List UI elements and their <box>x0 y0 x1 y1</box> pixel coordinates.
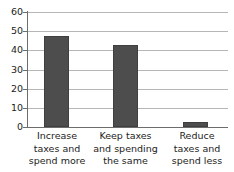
y-tick-label-60: 60 <box>2 7 23 17</box>
x-axis-category-labels: Increase taxes and spend more Keep taxes… <box>27 130 234 172</box>
bar-chart: 60 50 40 30 20 10 0 Increase taxes and s… <box>0 0 234 172</box>
bar-increase-taxes-and-spend-more <box>44 36 69 127</box>
y-tick-label-10: 10 <box>2 103 23 113</box>
plot-area <box>27 12 228 127</box>
gridline-60 <box>27 12 228 13</box>
x-label-line: taxes and <box>24 143 90 156</box>
x-label-line: Reduce <box>162 130 232 143</box>
x-label-line: spend less <box>162 155 232 168</box>
y-tick-mark-30 <box>23 70 27 71</box>
gridline-zero-axis <box>27 127 228 128</box>
y-tick-label-50: 50 <box>2 26 23 36</box>
y-tick-mark-10 <box>23 108 27 109</box>
y-tick-mark-50 <box>23 31 27 32</box>
y-tick-mark-20 <box>23 89 27 90</box>
y-tick-label-20: 20 <box>2 84 23 94</box>
x-label-keep-taxes-and-spending-the-same: Keep taxes and spending the same <box>88 130 163 168</box>
x-label-line: taxes and <box>162 143 232 156</box>
y-tick-mark-40 <box>23 50 27 51</box>
x-label-line: and spending <box>88 143 163 156</box>
y-tick-label-0: 0 <box>2 122 23 132</box>
x-label-reduce-taxes-and-spend-less: Reduce taxes and spend less <box>162 130 232 168</box>
y-tick-mark-0 <box>23 127 27 128</box>
bar-reduce-taxes-and-spend-less <box>183 122 208 127</box>
y-tick-label-30: 30 <box>2 65 23 75</box>
x-label-line: spend more <box>24 155 90 168</box>
x-label-line: Increase <box>24 130 90 143</box>
x-label-line: the same <box>88 155 163 168</box>
y-axis-line <box>27 11 28 128</box>
bar-keep-taxes-and-spending-the-same <box>113 45 138 127</box>
x-label-line: Keep taxes <box>88 130 163 143</box>
gridline-50 <box>27 31 228 32</box>
x-label-increase-taxes-and-spend-more: Increase taxes and spend more <box>24 130 90 168</box>
y-tick-mark-60 <box>23 12 27 13</box>
y-tick-label-40: 40 <box>2 45 23 55</box>
